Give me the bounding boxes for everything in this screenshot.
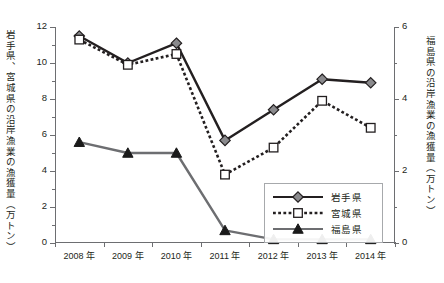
- series-line: [79, 36, 370, 140]
- data-point-marker: [221, 170, 230, 179]
- y-tick-label-right: 0: [402, 236, 424, 247]
- legend-item-岩手県: 岩手県: [272, 189, 376, 205]
- data-point-marker: [269, 143, 278, 152]
- legend-marker-diamond-icon: [272, 190, 324, 204]
- y-tick-label-left: 0: [25, 236, 47, 247]
- data-point-marker: [124, 61, 133, 70]
- y-tick-label-left: 10: [25, 56, 47, 67]
- y-axis-title-left: 岩手県、宮城県の沿岸漁業の漁獲量（万トン）: [4, 30, 16, 230]
- legend-item-宮城県: 宮城県: [272, 205, 376, 221]
- series-岩手県: [74, 31, 376, 146]
- legend: 岩手県宮城県福島県: [264, 183, 383, 243]
- y-tick-label-left: 12: [25, 20, 47, 31]
- legend-label: 岩手県: [331, 190, 362, 204]
- x-tick: [395, 242, 396, 247]
- y-tick-label-right: 4: [402, 92, 424, 103]
- legend-marker-square-icon: [272, 206, 324, 220]
- series-宮城県: [75, 35, 375, 179]
- legend-label: 宮城県: [331, 206, 362, 220]
- plot-area: 024681012 0246 2008 年2009 年2010 年2011 年2…: [55, 27, 395, 243]
- y-tick-label-right: 6: [402, 20, 424, 31]
- data-point-marker: [366, 124, 375, 133]
- y-tick-label-left: 8: [25, 92, 47, 103]
- y-axis-title-right: 福島県の沿岸漁業の漁獲量（万トン）: [424, 36, 436, 236]
- legend-marker-triangle-icon: [272, 222, 324, 236]
- y-tick-label-left: 4: [25, 164, 47, 175]
- data-point-marker: [318, 97, 327, 106]
- data-point-marker: [366, 78, 376, 88]
- data-point-marker: [171, 38, 181, 48]
- top-caption: [4, 0, 440, 9]
- y-tick-label-right: 2: [402, 164, 424, 175]
- data-point-marker: [75, 35, 84, 44]
- y-tick-label-left: 2: [25, 200, 47, 211]
- y-tick-label-left: 6: [25, 128, 47, 139]
- data-point-marker: [74, 137, 84, 146]
- legend-label: 福島県: [331, 222, 362, 236]
- legend-item-福島県: 福島県: [272, 221, 376, 237]
- data-point-marker: [172, 50, 181, 59]
- x-tick-label: 2014 年: [343, 249, 399, 262]
